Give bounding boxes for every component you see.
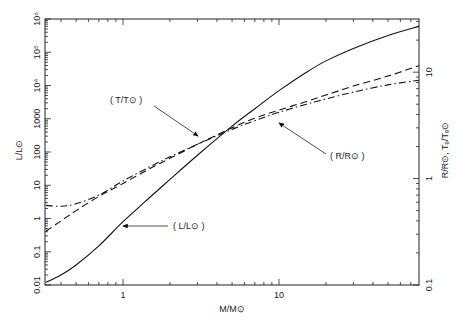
curve-dash-dot (46, 80, 419, 206)
svg-text:1000: 1000 (32, 109, 42, 129)
svg-text:( T/T⊙ ): ( T/T⊙ ) (110, 95, 142, 105)
svg-text:10: 10 (32, 180, 42, 190)
curve-dashed (46, 66, 419, 232)
svg-text:0.1: 0.1 (32, 245, 42, 258)
annotation-T: ( T/T⊙ ) (110, 95, 198, 136)
svg-text:10⁵: 10⁵ (32, 45, 42, 59)
svg-text:10⁶: 10⁶ (32, 12, 42, 26)
mass-luminosity-chart: 1100.010.1110100100010⁴10⁵10⁶0.1110 M/M⊙… (0, 0, 466, 335)
svg-text:( R/R⊙ ): ( R/R⊙ ) (330, 151, 365, 161)
x-axis-title: M/M⊙ (219, 304, 245, 314)
annotation-L: ( L/L⊙ ) (123, 221, 205, 231)
annotation-R: ( R/R⊙ ) (279, 123, 365, 161)
y2-axis-title: R/R⊙, Tₑ/Tₑ⊙ (440, 122, 450, 179)
svg-text:10⁴: 10⁴ (32, 78, 42, 92)
svg-text:10: 10 (424, 67, 434, 77)
svg-text:100: 100 (32, 144, 42, 159)
svg-text:0.1: 0.1 (424, 279, 434, 292)
svg-text:10: 10 (274, 290, 284, 300)
svg-text:( L/L⊙ ): ( L/L⊙ ) (173, 221, 205, 231)
svg-text:1: 1 (121, 290, 126, 300)
svg-text:0.01: 0.01 (32, 276, 42, 294)
y-axis-title: L/L⊙ (14, 140, 24, 161)
axis-tick-labels: 1100.010.1110100100010⁴10⁵10⁶0.1110 (32, 12, 434, 300)
svg-text:1: 1 (424, 176, 434, 181)
svg-text:1: 1 (32, 216, 42, 221)
